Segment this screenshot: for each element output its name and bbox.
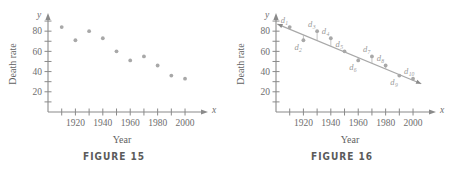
y-axis-variable: y <box>264 10 270 20</box>
x-axis-variable: x <box>439 105 445 115</box>
x-axis-label: Year <box>113 134 132 145</box>
residual-label: d1 <box>281 15 289 26</box>
data-point <box>101 36 105 40</box>
data-point <box>370 55 374 59</box>
residual-label-text: d9 <box>390 77 398 88</box>
residual-label-text: d7 <box>363 44 371 55</box>
data-point <box>397 74 401 78</box>
data-point <box>74 38 78 42</box>
figure-15-caption: FIGURE 15 <box>21 150 208 163</box>
residual-label-text: d4 <box>322 26 330 37</box>
y-tick-label: 80 <box>261 26 271 36</box>
x-tick-label: 1960 <box>121 118 140 128</box>
x-tick-label: 1980 <box>376 118 395 128</box>
y-tick-label: 20 <box>33 87 43 97</box>
y-tick-label: 40 <box>33 67 43 77</box>
residual-label: d4 <box>322 26 330 37</box>
data-point <box>329 36 333 40</box>
x-axis-arrow <box>201 109 208 114</box>
data-point <box>288 25 292 29</box>
x-tick-label: 1920 <box>66 118 85 128</box>
x-axis-arrow <box>429 109 436 114</box>
residual-label: d6 <box>349 62 357 73</box>
y-tick-label: 60 <box>261 47 271 57</box>
x-tick-label: 1920 <box>294 118 313 128</box>
residual-label: d10 <box>404 66 414 77</box>
y-axis-variable: y <box>36 10 42 20</box>
residual-label-text: d8 <box>377 53 385 64</box>
y-tick-label: 80 <box>33 26 43 36</box>
data-point <box>87 29 91 33</box>
figure-16-plot: 2040608019201940196019802000yxYearDeath … <box>228 0 456 150</box>
y-axis-label: Death rate <box>235 43 246 85</box>
x-tick-label: 2000 <box>176 118 195 128</box>
data-point <box>115 49 119 53</box>
figure-15-plot: 2040608019201940196019802000yxYearDeath … <box>0 0 228 150</box>
residual-label-text: d10 <box>404 66 414 77</box>
x-axis-label: Year <box>341 134 360 145</box>
residual-label: d8 <box>377 53 385 64</box>
data-point <box>411 77 415 81</box>
data-point <box>384 64 388 68</box>
y-axis-arrow <box>273 13 278 20</box>
data-point <box>156 64 160 68</box>
data-point <box>183 77 187 81</box>
x-tick-label: 1960 <box>349 118 368 128</box>
x-tick-label: 1940 <box>93 118 112 128</box>
residual-label: d9 <box>390 77 398 88</box>
x-tick-label: 2000 <box>404 118 423 128</box>
regression-line-arrow-right <box>416 80 422 84</box>
residual-label-text: d1 <box>281 15 289 26</box>
x-axis-variable: x <box>211 105 217 115</box>
data-point <box>60 25 64 29</box>
residual-label-text: d2 <box>294 42 302 53</box>
data-point <box>142 55 146 59</box>
residual-label: d7 <box>363 44 371 55</box>
residual-label-text: d5 <box>336 39 344 50</box>
y-axis-arrow <box>45 13 50 20</box>
y-tick-label: 60 <box>33 47 43 57</box>
x-tick-label: 1980 <box>148 118 167 128</box>
data-point <box>128 59 132 63</box>
figure-15: 2040608019201940196019802000yxYearDeath … <box>0 0 228 177</box>
data-point <box>315 29 319 33</box>
y-axis-label: Death rate <box>7 43 18 85</box>
data-point <box>169 74 173 78</box>
figure-16-caption: FIGURE 16 <box>249 150 436 163</box>
residual-label: d3 <box>308 19 316 30</box>
figure-16: 2040608019201940196019802000yxYearDeath … <box>228 0 456 177</box>
y-tick-label: 40 <box>261 67 271 77</box>
residual-label: d2 <box>294 42 302 53</box>
residual-label: d5 <box>336 39 344 50</box>
residual-label-text: d3 <box>308 19 316 30</box>
data-point <box>343 49 347 53</box>
y-tick-label: 20 <box>261 87 271 97</box>
regression-line-arrow-left <box>277 24 283 28</box>
x-tick-label: 1940 <box>321 118 340 128</box>
figure-pair-page: 2040608019201940196019802000yxYearDeath … <box>0 0 457 177</box>
data-point <box>356 59 360 63</box>
residual-label-text: d6 <box>349 62 357 73</box>
data-point <box>302 38 306 42</box>
